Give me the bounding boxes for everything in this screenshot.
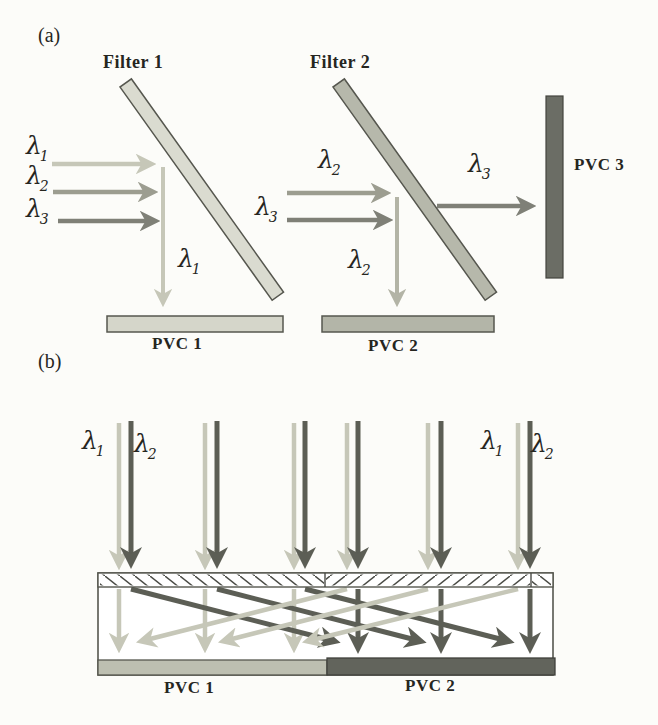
lambda3-label-f2-input: λ3 (255, 194, 278, 224)
lambda2-label-b-right: λ2 (531, 431, 554, 461)
lambda2-label-a-input: λ2 (26, 163, 49, 193)
pvc2-label-b: PVC 2 (405, 676, 455, 696)
panel-a-shapes (52, 79, 563, 332)
panel-a-label: (a) (38, 24, 60, 47)
pvc2-cell-b (327, 658, 555, 675)
lambda2-label-a-down: λ2 (348, 247, 371, 277)
scattering-layer (98, 573, 553, 587)
lambda2-label-b-left: λ2 (134, 431, 157, 461)
panel-b-shapes (98, 421, 555, 675)
filter1-label: Filter 1 (103, 52, 163, 73)
pvc3-cell-a (546, 96, 563, 278)
figure-canvas (0, 0, 658, 725)
hatch-end (532, 575, 551, 586)
lambda1-label-a-input: λ1 (26, 133, 49, 163)
lambda1-label-b-left: λ1 (82, 428, 105, 458)
lambda1-label-b-right: λ1 (481, 428, 504, 458)
lambda3-label-output: λ3 (468, 151, 491, 181)
pvc1-label-a: PVC 1 (152, 334, 202, 354)
pvc1-label-b: PVC 1 (164, 678, 214, 698)
filter1-bar (120, 79, 284, 300)
pvc3-label-a: PVC 3 (574, 155, 624, 175)
filter2-label: Filter 2 (310, 52, 370, 73)
pvc1-cell-a (107, 316, 283, 332)
pvc2-label-a: PVC 2 (368, 336, 418, 356)
hatch-right (326, 575, 530, 586)
pvc1-cell-b (98, 660, 327, 675)
lambda1-label-a-down: λ1 (178, 246, 201, 276)
pvc2-cell-a (322, 316, 494, 332)
lambda3-label-a-input: λ3 (26, 196, 49, 226)
lambda2-label-f2-input: λ2 (318, 147, 341, 177)
panel-b-label: (b) (38, 350, 61, 373)
figure: (a) Filter 1 Filter 2 PVC 1 PVC 2 PVC 3 … (0, 0, 658, 725)
incident-ray-pairs (119, 421, 530, 560)
hatch-left (100, 575, 324, 586)
